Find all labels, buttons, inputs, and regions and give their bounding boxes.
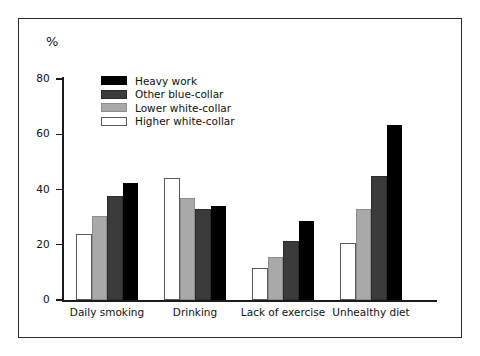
- bar: [356, 209, 372, 300]
- bar: [387, 125, 403, 300]
- y-tick-label: 0: [22, 293, 50, 305]
- bar: [107, 196, 123, 300]
- bar: [268, 257, 284, 300]
- y-tick-label: 40: [22, 183, 50, 195]
- bar: [283, 241, 299, 300]
- bar: [123, 183, 139, 300]
- y-tick-label: 80: [22, 72, 50, 84]
- bar: [340, 243, 356, 300]
- y-tick-label: 20: [22, 238, 50, 250]
- bar: [252, 268, 268, 300]
- bar: [371, 176, 387, 300]
- plot-area: [62, 79, 442, 300]
- bar: [92, 216, 108, 300]
- bar: [180, 198, 196, 300]
- bar-chart-figure: % 020406080 Heavy workOther blue-collarL…: [0, 0, 480, 356]
- bar: [164, 178, 180, 300]
- bar: [195, 209, 211, 300]
- y-tick-label: 60: [22, 127, 50, 139]
- bar: [299, 221, 315, 300]
- x-axis-group-label: Unhealthy diet: [311, 306, 431, 318]
- bar: [76, 234, 92, 300]
- x-axis-line: [62, 300, 437, 302]
- bar: [211, 206, 227, 300]
- y-axis-title: %: [46, 34, 58, 49]
